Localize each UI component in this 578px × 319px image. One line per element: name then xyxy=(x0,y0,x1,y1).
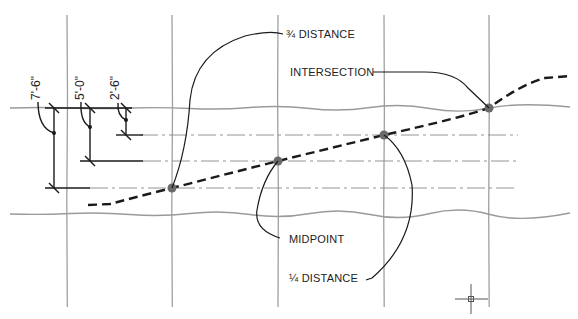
dimension-7ft6in: 7'-6" xyxy=(29,76,43,100)
alignment-curve xyxy=(88,76,570,205)
three-quarter-distance-label: ¾ DISTANCE xyxy=(286,28,355,40)
one-quarter-distance-label: ¼ DISTANCE xyxy=(289,272,358,284)
crosshair-cursor-icon xyxy=(455,284,488,314)
reference-points xyxy=(168,104,494,193)
intersection-label: INTERSECTION xyxy=(290,66,374,78)
offset-centerlines xyxy=(90,135,518,188)
dimension-lines xyxy=(38,102,143,193)
midpoint-label: MIDPOINT xyxy=(289,233,344,245)
dimension-2ft6in: 2'-6" xyxy=(108,76,122,100)
dimension-5ft0in: 5'-0" xyxy=(73,76,87,100)
